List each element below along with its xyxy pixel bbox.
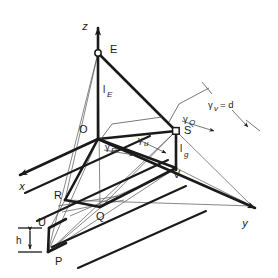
point-label-E: E — [110, 43, 117, 55]
length-label-h: h — [16, 235, 22, 246]
length-label-lg: l g — [180, 143, 189, 159]
gamma-label-v: γ v = d — [208, 99, 233, 113]
gamma-u-base: γ — [138, 134, 143, 145]
gamma-v-sub: v — [214, 104, 219, 113]
marker-S-square-icon — [173, 128, 180, 135]
gamma-bracket-tick-1 — [202, 82, 212, 94]
gamma-u-sub: u — [144, 139, 149, 148]
ray-S-ytip — [176, 131, 252, 206]
gamma-v-equation: = d — [220, 99, 233, 110]
point-label-O: O — [79, 123, 88, 135]
length-lE-base: l — [103, 84, 105, 95]
diagram-canvas: z x y E O S V R Q U P l E l g h γ R γ u — [0, 0, 278, 278]
edge-O-S — [98, 131, 176, 139]
length-lg-base: l — [180, 143, 182, 154]
gamma-v-base: γ — [208, 99, 213, 110]
geometric-diagram-svg: z x y E O S V R Q U P l E l g h γ R γ u — [0, 0, 278, 278]
edge-O-R — [65, 139, 98, 200]
point-label-Q: Q — [96, 210, 105, 222]
h-dimension-group — [18, 228, 42, 252]
gamma-R-sub: R — [111, 146, 117, 155]
point-label-P: P — [55, 255, 62, 267]
length-lE-sub: E — [107, 90, 113, 99]
marker-E-circle-icon — [95, 50, 101, 56]
gamma-Q-sub: Q — [189, 118, 195, 127]
construction-lines — [48, 53, 252, 252]
gamma-v-arrow — [232, 110, 248, 127]
point-label-V: V — [173, 168, 181, 180]
gamma-Q-bracket — [169, 88, 209, 122]
edge-x-axis — [20, 139, 98, 175]
axis-label-z: z — [81, 20, 88, 32]
gamma-R-base: γ — [105, 141, 110, 152]
edge-U-P — [48, 228, 49, 252]
edge-U-R — [49, 219, 66, 228]
axis-label-x: x — [18, 180, 25, 192]
point-label-U: U — [38, 216, 46, 228]
axis-label-y: y — [241, 217, 249, 229]
gamma-Q-base: γ — [183, 113, 188, 124]
length-lg-sub: g — [184, 150, 189, 159]
gamma-bracket-tick-2 — [246, 120, 260, 131]
point-label-R: R — [54, 189, 62, 201]
length-label-lE: l E — [103, 84, 113, 99]
